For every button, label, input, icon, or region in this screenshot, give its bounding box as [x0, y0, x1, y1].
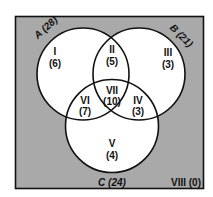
region-vii-count: (10) — [103, 96, 121, 107]
region-iii-numeral: III — [164, 47, 173, 58]
region-iv-count: (3) — [132, 106, 144, 117]
region-i-count: (6) — [49, 58, 61, 69]
region-iv-numeral: IV — [133, 95, 143, 106]
region-ii-numeral: II — [109, 44, 115, 55]
region-viii-label: VIII (0) — [171, 177, 201, 188]
region-i-numeral: I — [54, 46, 57, 57]
region-ii-count: (5) — [106, 56, 118, 67]
region-v-numeral: V — [109, 138, 116, 149]
set-c-label: C (24) — [98, 177, 126, 188]
region-vii-numeral: VII — [106, 85, 118, 96]
region-v-count: (4) — [106, 150, 118, 161]
venn-diagram: A (28) B (21) C (24) I (6) II (5) III (3… — [0, 0, 213, 197]
region-iii-count: (3) — [162, 59, 174, 70]
region-vi-numeral: VI — [80, 95, 90, 106]
region-vi-count: (7) — [79, 106, 91, 117]
